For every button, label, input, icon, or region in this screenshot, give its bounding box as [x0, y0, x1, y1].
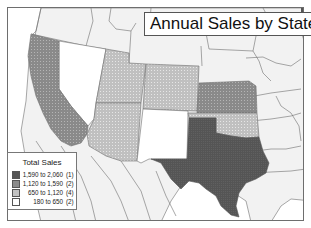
legend-count: (1): [66, 171, 74, 178]
state-new-mexico: [137, 109, 188, 163]
legend-item: 650 to 1,120 (4): [12, 188, 74, 197]
legend-swatch-icon: [12, 189, 20, 197]
legend-rows: 1,590 to 2,060 (1) 1,120 to 1,590 (2) 65…: [12, 170, 74, 206]
legend-count: (2): [66, 180, 74, 187]
legend-count: (4): [66, 189, 74, 196]
legend-count: (2): [66, 198, 74, 205]
legend-item: 1,120 to 1,590 (2): [12, 179, 74, 188]
legend-item: 180 to 650 (2): [12, 197, 74, 206]
legend-swatch-icon: [12, 180, 20, 188]
map-title: Annual Sales by State: [144, 12, 311, 36]
state-colorado: [143, 64, 199, 111]
legend-swatch-icon: [12, 198, 20, 206]
legend-swatch-icon: [12, 171, 20, 179]
legend-range: 1,120 to 1,590: [22, 180, 63, 187]
legend-range: 180 to 650: [22, 198, 63, 205]
legend-title: Total Sales: [8, 158, 76, 167]
legend-item: 1,590 to 2,060 (1): [12, 170, 74, 179]
legend: Total Sales 1,590 to 2,060 (1) 1,120 to …: [7, 152, 77, 210]
legend-range: 1,590 to 2,060: [22, 171, 63, 178]
state-kansas: [197, 81, 257, 113]
legend-range: 650 to 1,120: [22, 189, 63, 196]
